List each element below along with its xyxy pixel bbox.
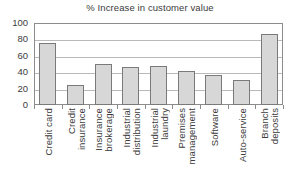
x-axis-label: Software	[210, 108, 220, 193]
x-axis-label-line: brokerage	[104, 108, 114, 152]
y-tick-label: 0	[23, 100, 28, 110]
bar[interactable]	[150, 66, 167, 105]
y-axis: 020406080100	[0, 23, 31, 105]
x-axis-label-line: deposits	[270, 108, 280, 144]
y-tick-label: 40	[17, 67, 28, 77]
bar[interactable]	[233, 80, 250, 105]
y-tick-label: 60	[17, 51, 28, 61]
x-axis-label: Premisesmanagement	[177, 108, 197, 193]
x-axis-label-line: laundry	[160, 108, 170, 140]
chart-title: % Increase in customer value	[0, 2, 300, 13]
x-axis-labels: Credit cardCreditinsuranceInsurancebroke…	[34, 108, 283, 193]
x-axis-label-line: insurance	[77, 108, 87, 150]
y-tick-label: 80	[17, 35, 28, 45]
y-tick-label: 20	[17, 84, 28, 94]
x-axis-label: Insurancebrokerage	[94, 108, 114, 193]
bar-chart: % Increase in customer value 02040608010…	[0, 0, 300, 193]
x-axis-label-line: Industrial	[150, 108, 160, 148]
gridline	[35, 40, 282, 41]
x-tick	[283, 105, 284, 109]
bar[interactable]	[95, 64, 112, 105]
x-axis-label: Branchdeposits	[260, 108, 280, 193]
x-axis-label-line: Credit	[67, 108, 77, 134]
bar[interactable]	[205, 75, 222, 105]
bar[interactable]	[261, 34, 278, 105]
y-tick-label: 100	[12, 18, 28, 28]
x-axis-label-line: distribution	[132, 108, 142, 155]
x-axis-label: Industrialdistribution	[122, 108, 142, 193]
x-axis-label-line: Auto-service	[238, 108, 248, 162]
bar[interactable]	[122, 67, 139, 105]
x-axis-label-line: Credit card	[44, 108, 54, 156]
bar[interactable]	[67, 85, 84, 106]
x-axis-label: Auto-service	[238, 108, 248, 193]
x-axis-label-line: management	[187, 108, 197, 164]
bar[interactable]	[178, 71, 195, 105]
x-axis-label-line: Software	[210, 108, 220, 146]
bar[interactable]	[39, 43, 56, 105]
gridline	[35, 57, 282, 58]
x-axis-label: Credit card	[44, 108, 54, 193]
x-axis-label: Industriallaundry	[150, 108, 170, 193]
x-axis-label: Creditinsurance	[67, 108, 87, 193]
